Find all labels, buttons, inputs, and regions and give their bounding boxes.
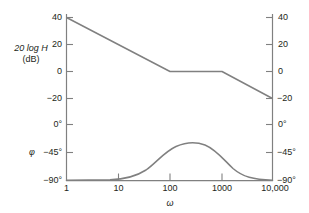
magnitude-axis-label-line2: (dB) [22,54,39,64]
magnitude-axis-label-line1: 20 log H [14,43,48,53]
right-magnitude-ticklabel-minus20: −20 [277,94,309,103]
right-magnitude-ticklabel-0: 0 [278,67,308,76]
left-phase-ticklabel-0deg: 0° [32,120,62,129]
right-phase-ticklabel-minus45deg: −45° [277,148,309,157]
right-magnitude-ticklabel-20: 20 [278,40,308,49]
left-magnitude-ticklabel-40: 40 [32,13,62,22]
x-ticklabel-10: 10 [106,184,131,193]
x-ticklabel-10000: 10,000 [256,184,294,193]
left-magnitude-ticklabel-minus20: −20 [30,94,62,103]
x-ticklabel-100: 100 [157,184,183,193]
x-axis-label: ω [155,198,185,209]
magnitude-axis-label: 20 log H (dB) [2,43,60,65]
phase-axis-label: φ [24,147,40,158]
right-phase-ticklabel-0deg: 0° [278,120,308,129]
left-magnitude-ticklabel-0: 0 [32,67,62,76]
x-ticklabel-1: 1 [54,184,79,193]
x-ticklabel-1000: 1000 [208,184,236,193]
right-magnitude-ticklabel-40: 40 [278,13,308,22]
